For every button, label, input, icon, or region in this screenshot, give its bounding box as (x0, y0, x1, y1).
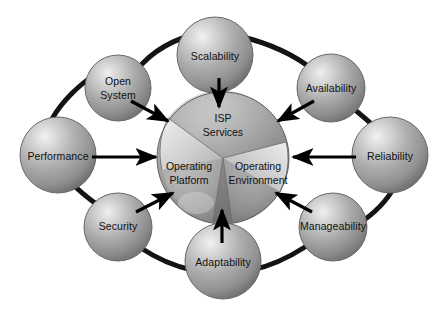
diagram-canvas: ISP Services Operating Platform Operatin… (0, 0, 447, 314)
node-security[interactable]: Security (84, 193, 152, 261)
node-scalability[interactable]: Scalability (177, 17, 253, 93)
node-open-system[interactable]: Open System (85, 55, 151, 121)
sector-label-isp-services-line1: ISP (215, 112, 232, 124)
sector-label-isp-services-line2: Services (203, 126, 243, 138)
node-label-open-system-line2: System (100, 89, 136, 101)
sector-label-operating-platform-line1: Operating (166, 160, 212, 172)
node-label-reliability: Reliability (367, 150, 414, 162)
sector-label-operating-environment-line2: Environment (229, 174, 288, 186)
central-sphere[interactable]: ISP Services Operating Platform Operatin… (157, 90, 289, 224)
node-label-adaptability: Adaptability (195, 256, 251, 268)
ring-segment-adaptability-to-security (141, 248, 192, 270)
sector-label-operating-platform-line2: Platform (169, 174, 208, 186)
node-label-availability: Availability (306, 82, 357, 94)
node-performance[interactable]: Performance (20, 117, 96, 193)
node-label-performance: Performance (27, 150, 88, 162)
node-reliability[interactable]: Reliability (352, 117, 428, 193)
isp-services-diagram: ISP Services Operating Platform Operatin… (0, 0, 447, 314)
arrow-manageability-to-center (276, 193, 312, 212)
node-manageability[interactable]: Manageability (299, 193, 367, 261)
node-availability[interactable]: Availability (297, 54, 365, 122)
node-label-scalability: Scalability (191, 50, 240, 62)
sector-label-operating-environment-line1: Operating (235, 160, 281, 172)
node-label-manageability: Manageability (300, 220, 367, 232)
node-label-open-system-line1: Open (105, 75, 131, 87)
node-label-security: Security (99, 220, 138, 232)
